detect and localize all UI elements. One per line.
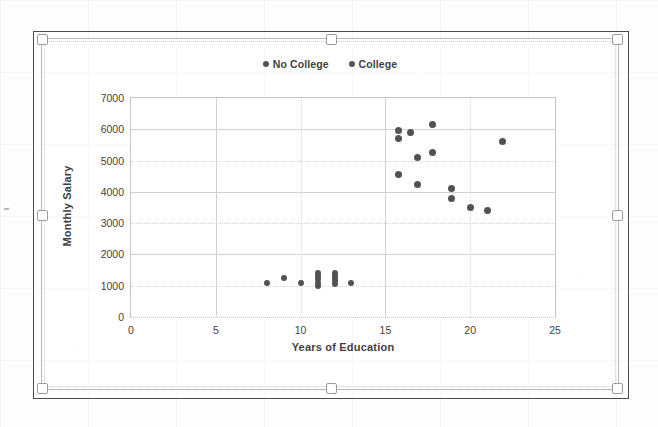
y-axis-tick-label: 4000 xyxy=(101,186,124,198)
data-point[interactable] xyxy=(315,270,321,276)
y-gridline xyxy=(131,223,555,224)
data-point[interactable] xyxy=(395,135,402,142)
plot-area[interactable]: 010002000300040005000600070000510152025 xyxy=(130,97,556,318)
data-point[interactable] xyxy=(448,195,455,202)
resize-handle-bottom-right[interactable] xyxy=(612,383,623,394)
resize-handle-top-center[interactable] xyxy=(326,34,337,45)
y-axis-tick-label: 0 xyxy=(118,311,124,323)
y-axis-tick-label: 7000 xyxy=(101,92,124,104)
x-gridline xyxy=(385,98,386,317)
y-axis-tick-label: 5000 xyxy=(101,155,124,167)
y-axis-tick-label: 6000 xyxy=(101,123,124,135)
scatter-chart[interactable]: No CollegeCollege Monthly Salary Years o… xyxy=(41,38,619,390)
data-point[interactable] xyxy=(499,138,506,145)
resize-handle-top-right[interactable] xyxy=(612,34,623,45)
y-gridline xyxy=(131,286,555,287)
data-point[interactable] xyxy=(395,171,402,178)
data-point[interactable] xyxy=(348,280,354,286)
data-point[interactable] xyxy=(298,280,304,286)
data-point[interactable] xyxy=(467,204,474,211)
data-point[interactable] xyxy=(429,149,436,156)
data-point[interactable] xyxy=(332,270,338,276)
resize-handle-bottom-left[interactable] xyxy=(37,383,48,394)
legend-item-1[interactable]: College xyxy=(349,58,398,70)
scanned-page: No CollegeCollege Monthly Salary Years o… xyxy=(0,0,658,427)
legend-marker-icon xyxy=(349,61,355,67)
data-point[interactable] xyxy=(407,129,414,136)
x-gridline xyxy=(216,98,217,317)
x-axis-tick-label: 20 xyxy=(464,324,476,336)
y-axis-tick-label: 1000 xyxy=(101,280,124,292)
data-point[interactable] xyxy=(414,181,421,188)
resize-handle-bottom-center[interactable] xyxy=(326,383,337,394)
chart-legend: No CollegeCollege xyxy=(41,58,619,70)
y-gridline xyxy=(131,192,555,193)
legend-marker-icon xyxy=(263,61,269,67)
y-axis-tick-label: 3000 xyxy=(101,217,124,229)
resize-handle-middle-right[interactable] xyxy=(612,210,623,221)
x-axis-tick-label: 0 xyxy=(128,324,134,336)
y-gridline xyxy=(131,129,555,130)
stray-pencil-mark xyxy=(4,208,9,211)
data-point[interactable] xyxy=(281,275,287,281)
legend-item-0[interactable]: No College xyxy=(263,58,329,70)
y-axis-title: Monthly Salary xyxy=(61,165,73,246)
data-point[interactable] xyxy=(264,280,270,286)
y-gridline xyxy=(131,161,555,162)
data-point[interactable] xyxy=(395,127,402,134)
x-axis-tick-label: 15 xyxy=(380,324,392,336)
x-axis-tick-label: 5 xyxy=(213,324,219,336)
resize-handle-middle-left[interactable] xyxy=(37,210,48,221)
legend-item-label: No College xyxy=(273,58,329,70)
data-point[interactable] xyxy=(429,121,436,128)
y-axis-tick-label: 2000 xyxy=(101,248,124,260)
legend-item-label: College xyxy=(359,58,398,70)
x-axis-tick-label: 25 xyxy=(549,324,561,336)
y-gridline xyxy=(131,254,555,255)
x-axis-tick-label: 10 xyxy=(295,324,307,336)
resize-handle-top-left[interactable] xyxy=(37,34,48,45)
data-point[interactable] xyxy=(414,154,421,161)
data-point[interactable] xyxy=(484,207,491,214)
x-axis-title: Years of Education xyxy=(130,341,556,353)
